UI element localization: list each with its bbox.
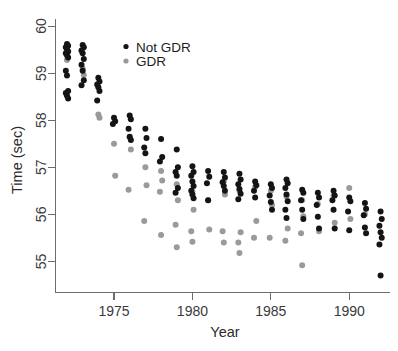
data-point — [332, 225, 338, 231]
data-point — [79, 62, 85, 68]
y-tick-label: 59 — [33, 65, 49, 81]
data-point — [142, 164, 148, 170]
data-point — [64, 72, 70, 78]
data-point — [191, 195, 197, 201]
x-tick-label: 1975 — [98, 303, 129, 319]
data-point — [96, 88, 102, 94]
data-point — [347, 216, 353, 222]
data-point — [298, 197, 304, 203]
data-point — [269, 207, 275, 213]
chart-background — [0, 0, 398, 351]
data-point — [81, 77, 87, 83]
data-point — [128, 146, 134, 152]
chart-canvas: 555657585960 Time (sec) 1975198019851990… — [0, 0, 398, 351]
data-point — [157, 159, 163, 165]
data-point — [329, 197, 335, 203]
y-tick-label: 55 — [33, 253, 49, 269]
y-axis-title: Time (sec) — [9, 126, 25, 194]
data-point — [299, 262, 305, 268]
data-point — [144, 182, 150, 188]
data-point — [268, 199, 274, 205]
data-point — [346, 227, 352, 233]
data-point — [285, 198, 291, 204]
legend-marker-gdr — [123, 58, 128, 63]
data-point — [235, 196, 241, 202]
y-tick-label: 57 — [33, 159, 49, 175]
data-point — [189, 163, 195, 169]
data-point — [282, 207, 288, 213]
data-point — [346, 185, 352, 191]
data-point — [362, 200, 368, 206]
data-point — [300, 190, 306, 196]
data-point — [220, 228, 226, 234]
data-point — [299, 207, 305, 213]
data-point — [315, 214, 321, 220]
x-axis-title: Year — [210, 324, 239, 340]
data-point — [111, 141, 117, 147]
data-point — [94, 97, 100, 103]
data-point — [65, 55, 71, 61]
data-point — [174, 173, 180, 179]
data-point — [379, 235, 385, 241]
y-tick-label: 58 — [33, 112, 49, 128]
data-point — [267, 193, 273, 199]
data-point — [235, 240, 241, 246]
data-point — [253, 182, 259, 188]
data-point — [174, 146, 180, 152]
data-point — [362, 225, 368, 231]
data-point — [236, 250, 242, 256]
data-point — [175, 197, 181, 203]
data-point — [112, 173, 118, 179]
data-point — [378, 273, 384, 279]
data-point — [204, 180, 210, 186]
data-point — [284, 192, 290, 198]
data-point — [158, 232, 164, 238]
legend-label-gdr: GDR — [136, 54, 166, 69]
data-point — [65, 96, 71, 102]
data-point — [251, 235, 257, 241]
data-point — [157, 189, 163, 195]
data-point — [300, 216, 306, 222]
data-point — [238, 191, 244, 197]
data-point — [222, 188, 228, 194]
data-point — [80, 68, 86, 74]
data-point — [80, 50, 86, 56]
data-point — [126, 187, 132, 193]
data-point — [252, 194, 258, 200]
x-tick-label: 1980 — [177, 303, 208, 319]
data-point — [331, 207, 337, 213]
x-tick-label: 1985 — [255, 303, 286, 319]
data-point — [332, 220, 338, 226]
data-point — [221, 240, 227, 246]
data-point — [141, 145, 147, 151]
data-point — [253, 218, 259, 224]
x-tick-label: 1990 — [334, 303, 365, 319]
scatter-plot-figure: 555657585960 Time (sec) 1975198019851990… — [0, 0, 398, 351]
data-point — [347, 198, 353, 204]
data-point — [285, 225, 291, 231]
data-point — [378, 229, 384, 235]
data-point — [188, 173, 194, 179]
data-point — [378, 209, 384, 215]
data-point — [236, 171, 242, 177]
data-point — [267, 235, 273, 241]
data-point — [363, 230, 369, 236]
data-point — [142, 126, 148, 132]
data-point — [206, 226, 212, 232]
data-point — [189, 239, 195, 245]
data-point — [205, 168, 211, 174]
data-point — [144, 135, 150, 141]
data-point — [205, 197, 211, 203]
data-point — [251, 188, 257, 194]
y-tick-label: 60 — [33, 18, 49, 34]
data-point — [174, 244, 180, 250]
data-point — [173, 190, 179, 196]
data-point — [158, 136, 164, 142]
data-point — [158, 168, 164, 174]
data-point — [316, 225, 322, 231]
data-point — [376, 241, 382, 247]
data-point — [191, 207, 197, 213]
legend-label-not-gdr: Not GDR — [136, 40, 191, 55]
data-point — [96, 115, 102, 121]
legend-marker-not-gdr — [123, 44, 128, 49]
